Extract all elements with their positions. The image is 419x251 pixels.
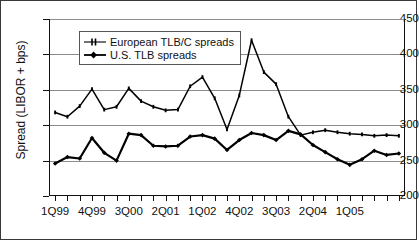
data-point-marker (163, 144, 168, 149)
legend-label-us: U.S. TLB spreads (110, 49, 197, 61)
data-point-marker (200, 133, 205, 138)
chart-legend: European TLB/C spreads U.S. TLB spreads (79, 31, 241, 65)
data-point-marker (397, 151, 402, 156)
legend-label-european: European TLB/C spreads (110, 36, 234, 48)
legend-entry-european: European TLB/C spreads (84, 35, 234, 48)
chart-figure: Spread (LIBOR + bps) 200250300350400450 … (0, 0, 419, 251)
legend-marker-plus-tick-icon (84, 36, 106, 48)
legend-entry-us: U.S. TLB spreads (84, 48, 234, 61)
figure-caption (2, 242, 302, 251)
legend-marker-filled-diamond-icon (84, 49, 106, 61)
